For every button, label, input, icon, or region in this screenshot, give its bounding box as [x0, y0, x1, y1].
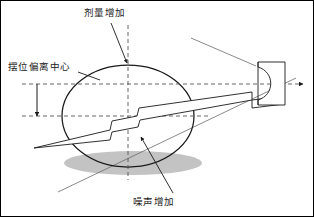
leader-line-dose	[111, 23, 127, 63]
label-noise-increase: 噪声增加	[133, 196, 175, 207]
detector-block	[258, 62, 285, 105]
diagram-canvas	[0, 0, 314, 217]
label-dose-increase: 剂量增加	[84, 7, 126, 18]
leader-line-offset	[78, 72, 100, 80]
beam-line-upper	[191, 38, 256, 66]
label-offset-from-center: 摆位偏离中心	[8, 61, 70, 72]
diagram-figure: 剂量增加 摆位偏离中心 噪声增加	[0, 0, 314, 217]
